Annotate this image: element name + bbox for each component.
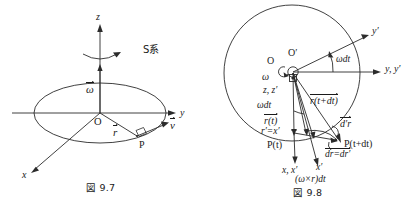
label-r-t-dt: r(t+dt)	[310, 96, 338, 106]
label-dr-eq-dr-prime: dr=dr′	[325, 150, 350, 160]
vector-v-line	[137, 124, 166, 136]
label-omega-dt-left: ωdt	[257, 101, 271, 111]
label-r-prime-eq-x-prime: r′=x′	[261, 127, 279, 137]
axis-x-arrowhead	[31, 167, 39, 173]
vector-label-r: r	[113, 127, 117, 138]
vector-r-text: r	[113, 127, 117, 138]
label-d-prime-r: d′r	[340, 119, 351, 129]
point-p-t-dot	[293, 132, 295, 134]
vector-v-text: v	[170, 120, 175, 131]
figure-caption-9-7: 図 9.7	[86, 183, 115, 193]
axis-label-x: x	[22, 170, 26, 180]
label-omega-dt-top: ωdt	[336, 55, 350, 65]
vector-omega-text: ω	[86, 84, 94, 95]
label-p-t: P(t)	[267, 140, 282, 150]
vector-r-t-dt-arrowhead	[336, 133, 341, 143]
figure-9-7-canvas	[0, 0, 210, 206]
origin-label-o: O	[94, 117, 102, 128]
figure-caption-9-8: 図 9.8	[293, 188, 322, 198]
label-omega-cross-r-dt: (ω×r)dt	[295, 175, 326, 185]
label-omega: ω	[262, 72, 269, 82]
label-r-t: r(t)	[264, 116, 277, 126]
figure-9-8: O O′ y′ y, y′ z, z′ x, x′ x′ ω ωdt ωdt r…	[205, 0, 420, 206]
point-p-t-dt-dot	[335, 139, 337, 141]
axis-label-y: y	[180, 108, 184, 118]
label-d-prime-r-text: d′r	[340, 119, 351, 129]
vector-label-omega: ω	[86, 84, 94, 95]
origin-label-o-fixed: O	[267, 56, 274, 66]
vector-v-arrowhead	[161, 122, 169, 128]
point-label-p: P	[139, 140, 145, 150]
omega-dt-arc-top-arrowhead	[328, 51, 333, 57]
label-p-t-dt: P(t+dt)	[344, 139, 372, 149]
vector-r-line	[100, 113, 137, 136]
axis-y-arrowhead	[168, 110, 176, 116]
origin-dot	[291, 76, 294, 79]
vector-label-v: v	[170, 120, 175, 131]
label-dr-eq-dr-prime-text: dr=dr′	[325, 150, 350, 160]
point-p-dot	[136, 135, 138, 137]
axis-label-z-zprime: z, z′	[263, 86, 277, 96]
axis-x-line	[34, 113, 100, 170]
figure-pair-container: z y x O P ω r v S系 図 9.7	[0, 0, 420, 206]
vector-r-t-line	[293, 73, 294, 133]
axis-z-arrowhead	[97, 24, 103, 32]
axis-label-y-yprime: y, y′	[385, 64, 401, 74]
label-r-t-text: r(t)	[264, 116, 277, 126]
frame-label-s: S系	[143, 45, 159, 55]
axis-xprime-rot-line	[293, 73, 317, 162]
axis-label-z: z	[96, 12, 100, 22]
axis-label-xprime-rot: x′	[316, 163, 322, 173]
vector-omega-arrowhead	[97, 64, 102, 71]
axis-y-yprime-arrowhead	[373, 69, 381, 74]
axis-x-xprime-arrowhead	[292, 157, 297, 165]
figure-9-7: z y x O P ω r v S系 図 9.7	[0, 0, 210, 206]
label-r-t-dt-text: r(t+dt)	[310, 96, 338, 106]
axis-label-yprime: y′	[372, 26, 379, 36]
rotation-arc-arrowhead	[113, 52, 121, 58]
origin-label-o-prime: O′	[288, 48, 297, 58]
omega-dt-arc-lower	[294, 111, 304, 114]
axis-x-xprime-line	[294, 133, 295, 160]
